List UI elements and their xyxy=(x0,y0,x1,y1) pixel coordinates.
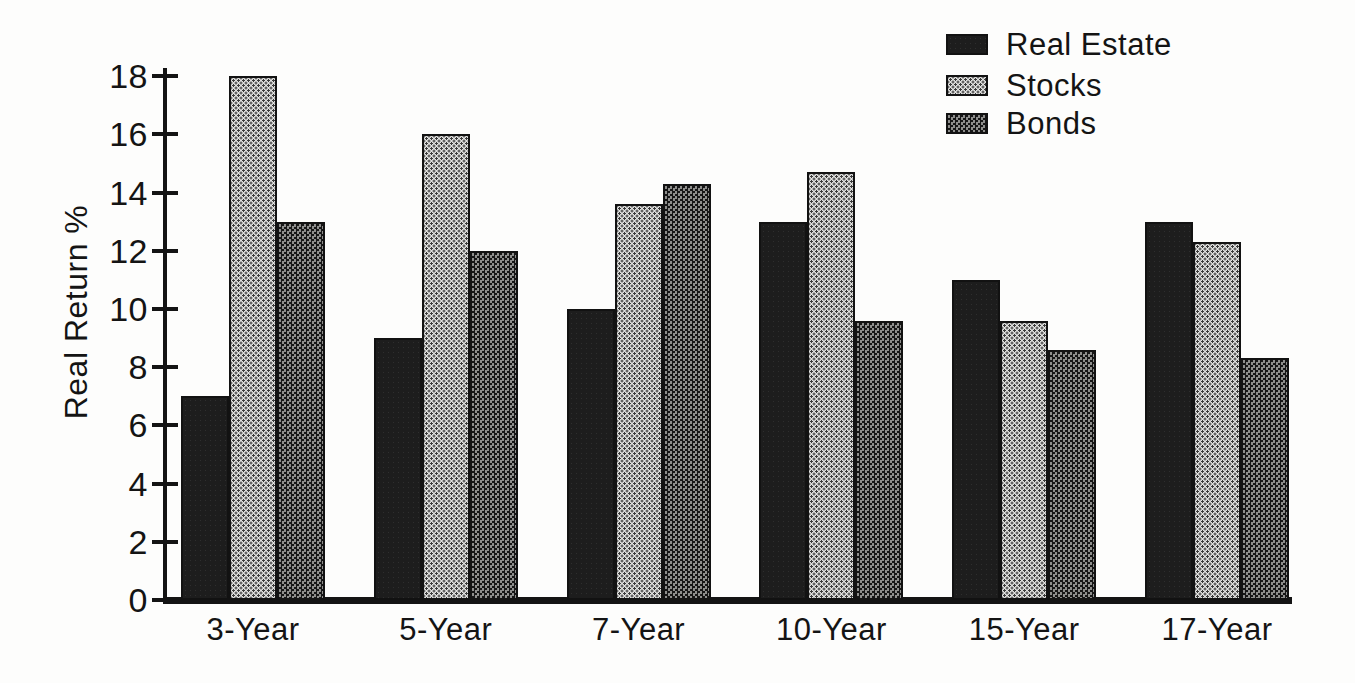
bar-stocks-17-year xyxy=(1193,242,1241,600)
bar-real-estate-17-year xyxy=(1145,222,1193,600)
bar-real-estate-10-year xyxy=(759,222,807,600)
y-tick-label-0: 0 xyxy=(129,581,148,620)
y-tick-label-18: 18 xyxy=(109,57,148,96)
x-axis-label-17-year: 17-Year xyxy=(1162,612,1273,648)
legend-label-stocks: Stocks xyxy=(1006,68,1102,104)
x-axis-label-7-year: 7-Year xyxy=(592,612,685,648)
legend-swatch-real-estate xyxy=(946,34,988,55)
bar-stocks-3-year xyxy=(229,76,277,600)
legend-label-real-estate: Real Estate xyxy=(1006,27,1172,63)
legend-label-bonds: Bonds xyxy=(1006,106,1096,142)
y-tick-16 xyxy=(152,132,178,136)
bar-bonds-7-year xyxy=(663,184,711,600)
y-tick-4 xyxy=(152,482,178,486)
x-axis-label-10-year: 10-Year xyxy=(776,612,887,648)
y-axis-line xyxy=(163,68,167,604)
y-tick-6 xyxy=(152,423,178,427)
y-tick-label-12: 12 xyxy=(109,231,148,270)
bar-bonds-17-year xyxy=(1241,358,1289,600)
x-axis-label-5-year: 5-Year xyxy=(399,612,492,648)
bar-bonds-15-year xyxy=(1048,350,1096,600)
y-tick-0 xyxy=(152,598,178,602)
bar-chart: Real Return % 024681012141618 3-Year5-Ye… xyxy=(0,0,1355,683)
y-tick-18 xyxy=(152,74,178,78)
y-tick-label-16: 16 xyxy=(109,115,148,154)
y-tick-8 xyxy=(152,365,178,369)
bar-bonds-10-year xyxy=(855,321,903,600)
y-tick-label-8: 8 xyxy=(129,348,148,387)
bar-stocks-7-year xyxy=(615,204,663,600)
bar-stocks-15-year xyxy=(1000,321,1048,600)
y-tick-12 xyxy=(152,249,178,253)
legend-swatch-bonds xyxy=(946,113,988,134)
y-tick-label-14: 14 xyxy=(109,173,148,212)
y-tick-label-10: 10 xyxy=(109,290,148,329)
bar-real-estate-3-year xyxy=(181,396,229,600)
y-tick-label-2: 2 xyxy=(129,522,148,561)
y-tick-10 xyxy=(152,307,178,311)
y-tick-label-6: 6 xyxy=(129,406,148,445)
bar-stocks-10-year xyxy=(807,172,855,600)
bar-real-estate-5-year xyxy=(374,338,422,600)
bar-real-estate-15-year xyxy=(952,280,1000,600)
x-axis-label-3-year: 3-Year xyxy=(206,612,299,648)
y-tick-14 xyxy=(152,191,178,195)
y-axis-title: Real Return % xyxy=(58,205,95,420)
x-axis-line xyxy=(165,597,1292,604)
bar-stocks-5-year xyxy=(422,134,470,600)
bar-bonds-3-year xyxy=(277,222,325,600)
legend-swatch-stocks xyxy=(946,75,988,96)
bar-bonds-5-year xyxy=(470,251,518,600)
bar-real-estate-7-year xyxy=(567,309,615,600)
y-tick-label-4: 4 xyxy=(129,464,148,503)
y-tick-2 xyxy=(152,540,178,544)
x-axis-label-15-year: 15-Year xyxy=(969,612,1080,648)
